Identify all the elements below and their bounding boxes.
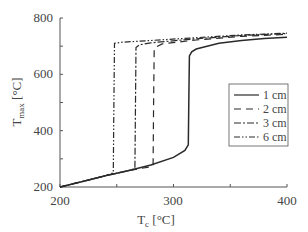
legend-label: 1 cm — [263, 88, 287, 102]
x-tick-labels: 200 300 400 — [50, 193, 297, 208]
chart-canvas: 800 600 400 200 200 300 400 Tc [°C] Tmax… — [0, 0, 308, 232]
legend-label: 2 cm — [263, 102, 287, 116]
y-tick-label: 200 — [34, 179, 54, 194]
y-axis-label: Tmax [°C] — [9, 77, 26, 126]
y-tick-label: 400 — [34, 123, 54, 138]
y-tick-label: 600 — [34, 66, 54, 81]
y-tick-label: 800 — [34, 10, 54, 25]
legend-label: 3 cm — [263, 116, 287, 130]
x-tick-label: 300 — [163, 193, 183, 208]
x-tick-label: 200 — [50, 193, 70, 208]
legend: 1 cm 2 cm 3 cm 6 cm — [229, 84, 288, 146]
y-tick-labels: 800 600 400 200 — [34, 10, 54, 194]
x-axis-label: Tc [°C] — [137, 212, 175, 229]
legend-label: 6 cm — [263, 130, 287, 144]
x-tick-label: 400 — [277, 193, 297, 208]
